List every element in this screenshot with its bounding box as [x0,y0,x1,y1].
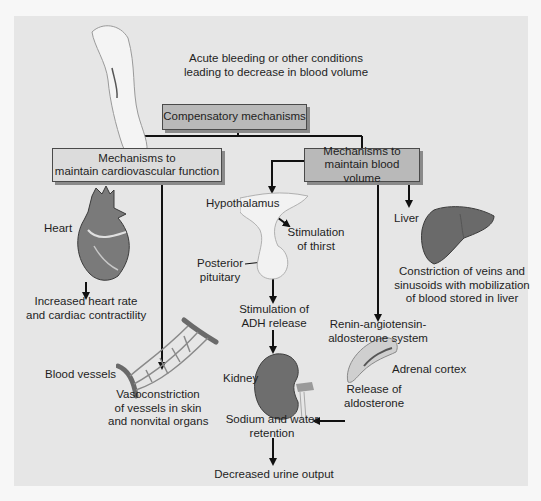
trigger-line-2: leading to decrease in blood volume [176,66,376,80]
aldosterone-line-2: aldosterone [344,397,404,411]
volume-box-line-2: maintain blood volume [305,158,419,185]
heart-effect-line-1: Increased heart rate [26,295,146,309]
raas-text: Renin-angiotensin- aldosterone system [328,318,428,345]
root-box-label: Compensatory mechanisms [163,110,306,124]
vessels-effect-line-3: and nonvital organs [108,415,208,429]
raas-line-1: Renin-angiotensin- [328,318,428,332]
liver-illustration [420,204,496,266]
adrenal-cortex-label: Adrenal cortex [392,363,466,377]
aldosterone-line-1: Release of [344,383,404,397]
liver-effect-line-1: Constriction of veins and [392,265,532,279]
liver-effect-line-2: sinusoids with mobilization [392,279,532,293]
cardio-box-line-2: maintain cardiovascular function [55,165,219,179]
adh-line-2: ADH release [236,317,312,331]
thirst-text: Stimulation of thirst [286,226,346,253]
kidney-label: Kidney [223,372,258,386]
liver-effect: Constriction of veins and sinusoids with… [392,265,532,306]
liver-effect-line-3: of blood stored in liver [392,292,532,306]
vessels-effect: Vasoconstriction of vessels in skin and … [108,388,208,429]
pituitary-line-1: Posterior [194,257,246,271]
blood-volume-box: Mechanisms to maintain blood volume [304,148,420,182]
sodium-line-1: Sodium and water [222,413,322,427]
thirst-line-2: of thirst [286,240,346,254]
trigger-text: Acute bleeding or other conditions leadi… [176,52,376,79]
leg-illustration [84,18,154,163]
heart-label: Heart [44,222,72,236]
cardio-box-line-1: Mechanisms to [98,152,175,166]
heart-illustration [74,186,136,282]
adh-text: Stimulation of ADH release [236,303,312,330]
trigger-line-1: Acute bleeding or other conditions [176,52,376,66]
sodium-text: Sodium and water retention [222,413,322,440]
thirst-line-1: Stimulation [286,226,346,240]
vessels-effect-line-2: of vessels in skin [108,402,208,416]
aldosterone-text: Release of aldosterone [344,383,404,410]
compensatory-mechanisms-box: Compensatory mechanisms [162,104,307,130]
volume-box-line-1: Mechanisms to [323,145,400,159]
adh-line-1: Stimulation of [236,303,312,317]
vessels-effect-line-1: Vasoconstriction [108,388,208,402]
posterior-pituitary-label: Posterior pituitary [194,257,246,284]
raas-line-2: aldosterone system [328,332,428,346]
hypothalamus-label: Hypothalamus [206,197,280,211]
heart-effect-line-2: and cardiac contractility [26,309,146,323]
urine-output-text: Decreased urine output [210,468,338,482]
liver-label: Liver [394,212,419,226]
kidney-illustration [252,352,318,422]
cardiovascular-box: Mechanisms to maintain cardiovascular fu… [52,148,222,182]
pituitary-line-2: pituitary [194,271,246,285]
blood-vessels-label: Blood vessels [45,368,116,382]
heart-effect: Increased heart rate and cardiac contrac… [26,295,146,322]
sodium-line-2: retention [222,427,322,441]
blood-vessels-illustration [116,312,220,400]
